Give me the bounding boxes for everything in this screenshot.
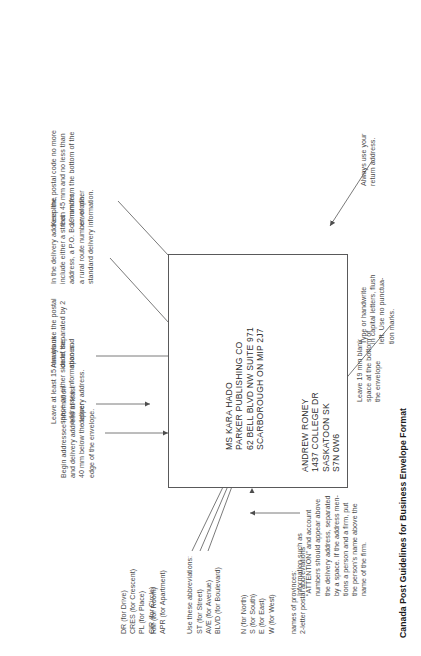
return-address-block: ANDREW RONEY 1437 COLLEGE DR SASKATOON S…	[300, 322, 342, 472]
page-caption: Canada Post Guidelines for Business Enve…	[398, 408, 408, 638]
delivery-address-block: MS KARA HADO PARKER PUBLISHING CO 62 BEL…	[224, 280, 266, 450]
annotation-capital-letters: Type or handwrite in capital letters, fl…	[360, 244, 397, 344]
annotation-return-address-note: Always use your return address.	[360, 90, 378, 186]
annotation-postal-code-position: Keep the postal code no more than 45 mm …	[50, 94, 87, 226]
abbreviations-column-1: ST (for Street) AVE (for Avenue) BLVD (f…	[196, 514, 224, 634]
diagram-canvas: ANDREW RONEY 1437 COLLEGE DR SASKATOON S…	[0, 0, 421, 656]
abbreviations-provinces: names of provinces: 2-letter postal abbr…	[290, 484, 308, 634]
abbreviations-heading: Use these abbreviations:	[186, 514, 195, 634]
abbreviations-units: RM (for Room) APR (for Apartment)	[150, 514, 168, 634]
abbreviations-directions: N (for North) S (for South) E (for East)…	[240, 514, 277, 634]
annotation-postal-code-spaces: Always use the postal code, separated by…	[50, 268, 78, 368]
